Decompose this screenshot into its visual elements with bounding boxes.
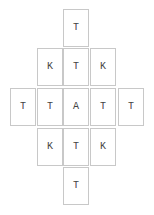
card-r2-c3[interactable]: T	[90, 88, 116, 126]
card-r1-c2[interactable]: K	[90, 48, 116, 86]
card-letter: T	[100, 102, 106, 112]
card-r0-c0[interactable]: T	[63, 9, 89, 47]
card-r3-c1[interactable]: T	[63, 128, 89, 166]
card-letter: K	[47, 142, 53, 152]
card-r3-c2[interactable]: K	[90, 128, 116, 166]
card-letter: T	[47, 102, 53, 112]
card-r2-c0[interactable]: T	[10, 88, 36, 126]
card-letter: T	[73, 181, 79, 191]
card-r2-c2[interactable]: A	[63, 88, 89, 126]
card-letter: K	[100, 142, 106, 152]
card-letter: T	[73, 142, 79, 152]
card-r2-c4[interactable]: T	[118, 88, 144, 126]
card-letter: K	[47, 62, 53, 72]
card-r4-c0[interactable]: T	[63, 167, 89, 205]
card-r3-c0[interactable]: K	[37, 128, 63, 166]
card-letter: T	[128, 102, 134, 112]
card-letter: T	[20, 102, 26, 112]
card-board: T K T K T T A T T K T K T	[0, 0, 154, 215]
card-letter: K	[100, 62, 106, 72]
card-letter: T	[73, 62, 79, 72]
card-r1-c1[interactable]: T	[63, 48, 89, 86]
card-r2-c1[interactable]: T	[37, 88, 63, 126]
card-letter: T	[73, 23, 79, 33]
card-letter: A	[73, 102, 79, 112]
card-r1-c0[interactable]: K	[37, 48, 63, 86]
